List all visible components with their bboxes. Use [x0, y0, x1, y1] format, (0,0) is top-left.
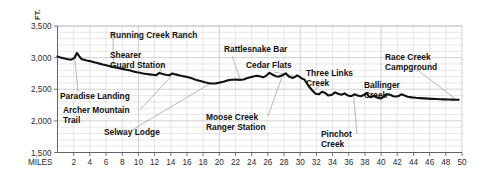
- annotation-selway-lodge: Selway Lodge: [104, 127, 160, 137]
- annotation-line: Running Creek Ranch: [110, 30, 197, 40]
- y-tick-label: 3,500: [31, 22, 52, 31]
- x-axis-tick-labels: 2468101214161820222426283032343638404244…: [71, 158, 467, 167]
- x-tick-label: 16: [182, 158, 192, 167]
- x-tick-label: 34: [328, 158, 338, 167]
- annotation-line: Ranger Station: [206, 122, 266, 132]
- annotation-rattlesnake-bar: Rattlesnake Bar: [224, 44, 288, 54]
- y-tick-label: 1,500: [31, 149, 52, 158]
- x-tick-label: 30: [296, 158, 306, 167]
- x-tick-label: 44: [409, 158, 419, 167]
- annotation-line: Pinchot: [321, 129, 352, 139]
- x-tick-label: 26: [263, 158, 273, 167]
- x-axis-title: MILES: [28, 158, 53, 167]
- x-tick-label: 36: [344, 158, 354, 167]
- leader-line-archer-mountain-trail: [140, 74, 173, 110]
- x-tick-label: 18: [199, 158, 209, 167]
- x-tick-label: 22: [231, 158, 241, 167]
- annotation-archer-mountain-trail: Archer MountainTrail: [63, 105, 130, 125]
- annotation-line: Trail: [63, 115, 80, 125]
- x-tick-label: 12: [150, 158, 160, 167]
- x-tick-label: 6: [104, 158, 109, 167]
- river-elevation-profile-chart: 1,5002,0002,5003,0003,500 24681012141618…: [0, 0, 481, 180]
- annotation-line: Guard Station: [110, 60, 165, 70]
- x-tick-label: 50: [457, 158, 467, 167]
- annotation-line: Paradise Landing: [60, 91, 130, 101]
- leader-line-rattlesnake-bar: [232, 56, 240, 79]
- annotation-line: Moose Creek: [206, 112, 258, 122]
- y-axis-tick-labels: 1,5002,0002,5003,0003,500: [31, 22, 52, 158]
- annotation-line: Creek: [321, 139, 345, 149]
- leader-line-race-creek-campground: [415, 68, 456, 100]
- annotation-cedar-flats: Cedar Flats: [246, 60, 292, 70]
- y-axis-title: FT.: [33, 9, 42, 20]
- annotation-paradise-landing: Paradise Landing: [60, 91, 130, 101]
- leader-line-paradise-landing: [74, 55, 78, 92]
- annotation-line: Campground: [385, 62, 437, 72]
- annotation-line: Three Links: [306, 68, 353, 78]
- x-tick-label: 48: [441, 158, 451, 167]
- y-tick-label: 2,000: [31, 117, 52, 126]
- x-tick-label: 38: [360, 158, 370, 167]
- x-tick-label: 24: [247, 158, 257, 167]
- annotation-running-creek-ranch: Running Creek Ranch: [110, 30, 197, 40]
- x-tick-label: 40: [377, 158, 387, 167]
- annotation-three-links-creek: Three LinksCreek: [306, 68, 353, 88]
- annotation-line: Race Creek: [385, 52, 431, 62]
- y-tick-label: 3,000: [31, 54, 52, 63]
- annotation-line: Ballinger: [364, 80, 401, 90]
- annotation-line: Shearer: [110, 50, 142, 60]
- annotation-shearer-guard-station: ShearerGuard Station: [110, 50, 165, 70]
- annotation-line: Creek: [306, 78, 330, 88]
- annotation-line: Rattlesnake Bar: [224, 44, 288, 54]
- x-tick-label: 4: [88, 158, 93, 167]
- x-tick-label: 46: [425, 158, 435, 167]
- x-tick-label: 2: [71, 158, 76, 167]
- x-tick-label: 14: [166, 158, 176, 167]
- annotation-moose-creek-rs: Moose CreekRanger Station: [206, 112, 266, 132]
- annotation-line: Archer Mountain: [63, 105, 130, 115]
- x-tick-label: 10: [134, 158, 144, 167]
- x-tick-label: 20: [215, 158, 225, 167]
- y-tick-label: 2,500: [31, 85, 52, 94]
- leader-line-moose-creek-rs: [268, 73, 283, 116]
- annotation-race-creek-campground: Race CreekCampground: [385, 52, 437, 72]
- x-tick-label: 8: [120, 158, 125, 167]
- x-tick-label: 32: [312, 158, 322, 167]
- x-tick-label: 42: [393, 158, 403, 167]
- annotation-pinchot-creek: PinchotCreek: [321, 129, 352, 149]
- annotation-line: Selway Lodge: [104, 127, 160, 137]
- chart-canvas: 1,5002,0002,5003,0003,500 24681012141618…: [0, 0, 481, 180]
- leader-line-selway-lodge: [132, 83, 210, 130]
- x-tick-label: 28: [279, 158, 289, 167]
- annotation-line: Creek: [364, 90, 388, 100]
- annotation-line: Cedar Flats: [246, 60, 292, 70]
